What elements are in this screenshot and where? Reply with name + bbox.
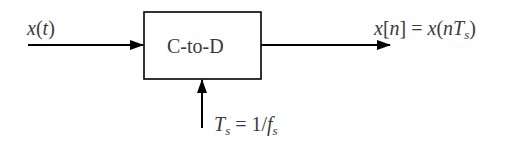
input-label: x(t): [27, 18, 55, 38]
output-label: x[n] = x(nTs): [374, 18, 476, 41]
block-label: C-to-D: [167, 36, 224, 56]
control-label: Ts = 1/fs: [214, 114, 278, 137]
c-to-d-diagram: C-to-D x(t) x[n] = x(nTs) Ts = 1/fs: [0, 0, 526, 143]
